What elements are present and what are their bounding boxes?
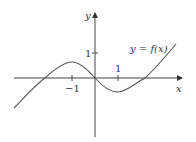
- curve-label: y = f(x): [129, 43, 168, 54]
- x-axis-label: x: [176, 83, 182, 94]
- chart-canvas: y x −1 1 1 y = f(x): [0, 0, 196, 142]
- tick-label-x-neg1: −1: [65, 83, 80, 94]
- y-axis-label: y: [84, 10, 91, 21]
- tick-label-y-1: 1: [85, 48, 91, 59]
- tick-label-x-1: 1: [115, 63, 121, 74]
